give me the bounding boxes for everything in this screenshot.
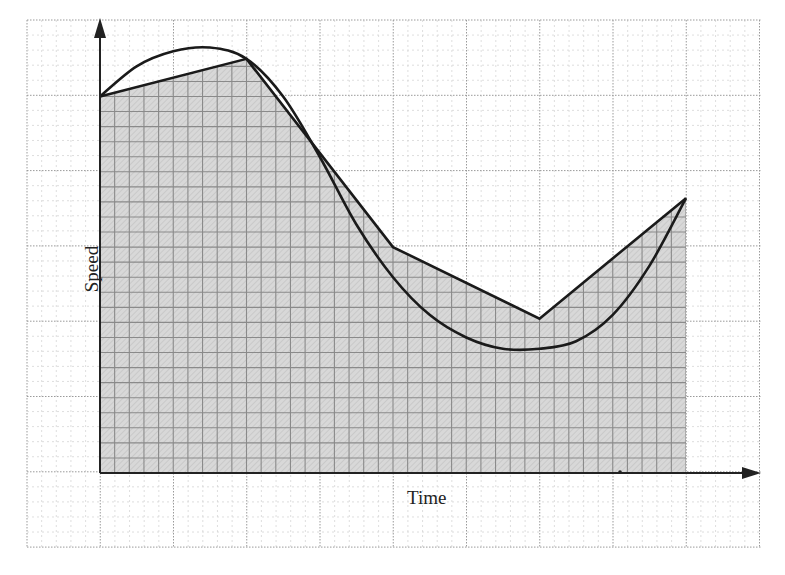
- stray-dot: [618, 470, 622, 474]
- x-axis-arrow-icon: [742, 467, 761, 479]
- speed-time-chart: [0, 0, 785, 575]
- y-axis-label: Speed: [81, 239, 103, 299]
- y-axis-arrow-icon: [94, 18, 106, 38]
- x-axis-label: Time: [407, 487, 446, 509]
